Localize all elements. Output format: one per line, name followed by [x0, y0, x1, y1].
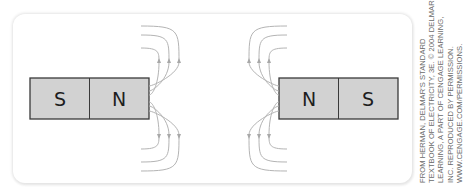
right-magnet-pole-2: S	[362, 88, 374, 110]
credit-line: FROM HERMAN, DELMAR'S STANDARD	[418, 13, 427, 183]
copyright-credit: FROM HERMAN, DELMAR'S STANDARD TEXTBOOK …	[418, 13, 464, 183]
left-field-arrow-lower	[157, 134, 161, 139]
left-field-arrow-upper	[167, 58, 171, 63]
left-field-arrow-upper	[157, 58, 161, 63]
left-magnet: S N	[30, 78, 149, 119]
right-field-arrow-lower	[267, 134, 271, 139]
right-magnet: N S	[279, 78, 398, 119]
right-field-arrow-upper	[267, 58, 271, 63]
left-field-arrow-upper	[177, 58, 181, 63]
credit-line: LEARNING, A PART OF CENGAGE LEARNING,	[436, 13, 445, 183]
left-magnet-pole-1: S	[54, 88, 66, 110]
credit-line: WWW.CENGAGE.COM/PERMISSIONS.	[455, 13, 464, 183]
right-field-arrow-lower	[247, 134, 251, 139]
right-field-arrow-upper	[257, 58, 261, 63]
left-magnet-pole-2: N	[112, 88, 126, 110]
right-field-arrow-upper	[247, 58, 251, 63]
credit-line: TEXTBOOK OF ELECTRICITY, 3E. © 2004 DELM…	[427, 13, 436, 183]
right-magnet-pole-1: N	[302, 88, 316, 110]
credit-line: INC. REPRODUCED BY PERMISSION.	[446, 13, 455, 183]
left-field-arrow-lower	[177, 134, 181, 139]
right-field-arrow-lower	[257, 134, 261, 139]
magnet-diagram: S N N S	[0, 0, 474, 193]
left-field-arrow-lower	[167, 134, 171, 139]
